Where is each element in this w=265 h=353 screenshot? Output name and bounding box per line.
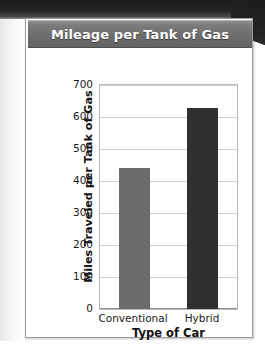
x-axis-title: Type of Car	[99, 326, 238, 340]
page-bottom-edge	[0, 341, 265, 353]
bar-fill	[187, 108, 218, 309]
chart-body: (13.2 gallons) Miles Traveled per Tank o…	[26, 49, 252, 337]
y-axis-tick-label: 300	[73, 206, 93, 218]
page-top-dark-edge	[0, 0, 265, 19]
y-axis-tick-label: 400	[73, 174, 93, 186]
x-axis-tick-label: Hybrid	[185, 312, 220, 324]
page-left-edge-shading	[0, 10, 22, 353]
y-axis-tick-label: 100	[73, 270, 93, 282]
y-axis-tick-label: 700	[73, 78, 93, 90]
bar-conventional	[119, 168, 150, 309]
y-axis-tick-label: 500	[73, 142, 93, 154]
y-axis-tick-label: 0	[86, 302, 93, 314]
y-axis-tick-label: 200	[73, 238, 93, 250]
plot-area	[99, 84, 238, 310]
chart-title-bar: Mileage per Tank of Gas	[28, 20, 252, 48]
gridline	[100, 85, 237, 86]
y-axis-tick-label: 600	[73, 110, 93, 122]
chart-card: Mileage per Tank of Gas (13.2 gallons) M…	[25, 18, 253, 338]
x-axis-tick-label: Conventional	[98, 312, 167, 324]
y-axis-title: (13.2 gallons) Miles Traveled per Tank o…	[28, 71, 62, 303]
bar-hybrid	[187, 108, 218, 309]
scanned-page-background: Mileage per Tank of Gas (13.2 gallons) M…	[0, 0, 265, 353]
chart-title: Mileage per Tank of Gas	[51, 27, 229, 42]
bar-fill	[119, 168, 150, 309]
y-axis-tick-labels: 7006005004003002001000	[62, 49, 96, 315]
